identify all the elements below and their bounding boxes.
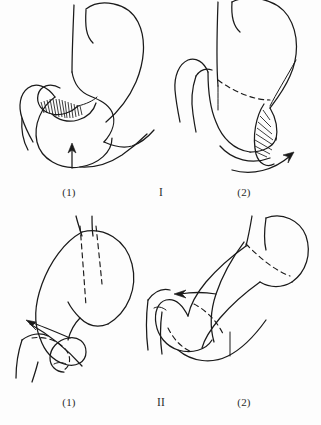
caption-row2-left: (1) [56, 396, 82, 408]
arrow-panel-one [68, 143, 76, 168]
caption-row1-left: (1) [56, 186, 82, 198]
dashed-contour-panel-two [218, 80, 270, 100]
panel-one-step-one [0, 0, 165, 180]
panel-one-step-two [160, 0, 321, 180]
dashed-contour-panel-four-a [246, 244, 290, 276]
dashed-contour-panel-three-b [96, 226, 102, 284]
caption-row2-right: (2) [231, 396, 257, 408]
panel-two-step-one [8, 212, 168, 387]
panel-two-step-two [148, 212, 321, 387]
dashed-contour-panel-four-c [168, 328, 192, 352]
dashed-contour-panel-four-b [194, 304, 224, 336]
figure-root: (1) I (2) (1) II (2) [0, 0, 321, 425]
caption-row1-right: (2) [231, 186, 257, 198]
group-label-one: I [148, 186, 174, 198]
dashed-contour-panel-three-a [80, 226, 86, 306]
group-label-two: II [148, 396, 174, 408]
